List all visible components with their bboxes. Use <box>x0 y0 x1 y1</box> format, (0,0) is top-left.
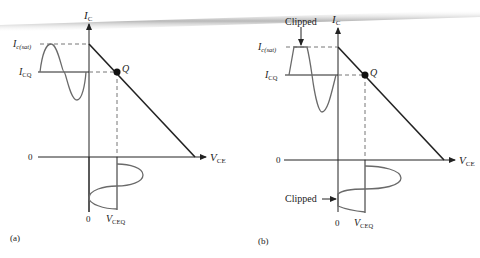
q-point <box>114 69 121 76</box>
q-label: Q <box>370 67 378 78</box>
vceq-label: VCEQ <box>106 213 125 225</box>
dc-load-line <box>89 44 195 157</box>
icq-label: ICQ <box>264 69 278 81</box>
q-label: Q <box>122 63 130 74</box>
ic-sat-label: Ic(sat) <box>12 38 31 51</box>
caption-a: (a) <box>10 233 20 243</box>
dc-load-line <box>338 47 444 160</box>
ic-axis-label: IC <box>83 9 93 23</box>
vce-clipped-waveform <box>338 166 401 212</box>
zero-h-label: 0 <box>276 155 281 165</box>
panel-a: IC Ic(sat) ICQ Q VCE 0 0 VCEQ (a) <box>10 9 226 243</box>
panel-b: IC Clipped Ic(sat) ICQ Q VCE 0 Clipped 0… <box>257 13 475 246</box>
caption-b: (b) <box>258 236 269 246</box>
q-point <box>362 72 369 79</box>
clipped-top-label: Clipped <box>285 16 317 27</box>
vceq-label: VCEQ <box>354 217 373 229</box>
zero-v-label: 0 <box>335 218 340 228</box>
ic-clipped-waveform <box>289 47 336 112</box>
clipped-bottom-label: Clipped <box>285 193 317 204</box>
vce-waveform <box>89 164 143 209</box>
page-shadow <box>0 10 480 32</box>
icq-label: ICQ <box>18 66 32 78</box>
vce-axis-label: VCE <box>210 151 226 165</box>
transistor-load-line-diagram: IC Ic(sat) ICQ Q VCE 0 0 VCEQ (a) IC <box>0 0 480 258</box>
vce-axis-label: VCE <box>459 154 475 168</box>
zero-h-label: 0 <box>28 152 33 162</box>
zero-v-label: 0 <box>86 214 91 224</box>
ic-sat-label: Ic(sat) <box>257 41 276 54</box>
